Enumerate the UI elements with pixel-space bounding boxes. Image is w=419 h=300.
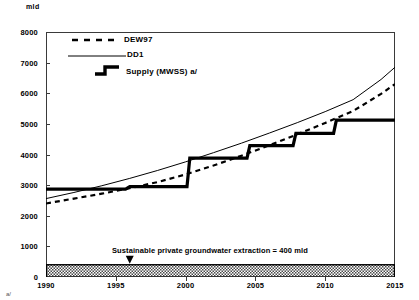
x-tick-mark-2005 xyxy=(255,277,256,281)
series-line-dd1 xyxy=(46,67,395,198)
x-tick-label-2000: 2000 xyxy=(166,281,206,290)
figure-footnote: a/ xyxy=(6,291,11,297)
y-tick-label-3000: 3000 xyxy=(4,181,38,190)
x-tick-label-2015: 2015 xyxy=(375,281,415,290)
solid-line-icon xyxy=(66,48,128,62)
annotation-marker-triangle xyxy=(126,256,134,264)
y-tick-label-5000: 5000 xyxy=(4,120,38,129)
y-tick-label-4000: 4000 xyxy=(4,151,38,160)
y-tick-label-1000: 1000 xyxy=(4,242,38,251)
legend-label-dew97: DEW97 xyxy=(124,35,153,44)
y-tick-label-6000: 6000 xyxy=(4,89,38,98)
y-tick-label-2000: 2000 xyxy=(4,212,38,221)
dashed-line-icon xyxy=(70,33,118,47)
sustainable-groundwater-band xyxy=(47,265,395,277)
x-tick-label-2005: 2005 xyxy=(235,281,275,290)
y-tick-label-8000: 8000 xyxy=(4,28,38,37)
x-tick-mark-2000 xyxy=(186,277,187,281)
x-tick-label-2010: 2010 xyxy=(305,281,345,290)
x-tick-mark-1995 xyxy=(116,277,117,281)
x-tick-mark-2010 xyxy=(325,277,326,281)
legend-label-supply: Supply (MWSS) a/ xyxy=(126,67,197,76)
band-annotation-text: Sustainable private groundwater extracti… xyxy=(112,246,308,255)
y-axis-unit-label: mld xyxy=(26,3,40,10)
chart-figure: mld 010002000300040005000600070008000 19… xyxy=(0,0,419,300)
y-tick-label-7000: 7000 xyxy=(4,59,38,68)
x-tick-label-1990: 1990 xyxy=(26,281,66,290)
x-tick-label-1995: 1995 xyxy=(96,281,136,290)
legend-label-dd1: DD1 xyxy=(127,50,144,59)
series-line-supply xyxy=(46,120,395,189)
series-line-dew97 xyxy=(46,84,395,203)
